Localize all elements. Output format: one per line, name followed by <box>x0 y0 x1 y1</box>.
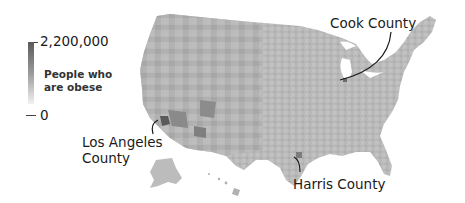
los-angeles-county-label: Los Angeles County <box>82 135 163 166</box>
legend-color-scale <box>28 42 34 104</box>
hawaii-shape <box>208 173 240 196</box>
harris-county <box>296 152 302 158</box>
legend-min-tick <box>26 115 36 116</box>
los-angeles-label-line2: County <box>82 151 163 166</box>
cook-county-label: Cook County <box>330 16 416 31</box>
los-angeles-label-line1: Los Angeles <box>82 135 163 150</box>
legend-max-tick <box>34 42 38 43</box>
legend-title-line1: People who <box>44 68 112 81</box>
legend-max-label: 2,200,000 <box>40 34 109 49</box>
legend-title-line2: are obese <box>44 81 112 94</box>
harris-county-label: Harris County <box>293 177 385 192</box>
legend-min-label: 0 <box>40 108 49 123</box>
legend-title: People who are obese <box>44 68 112 93</box>
